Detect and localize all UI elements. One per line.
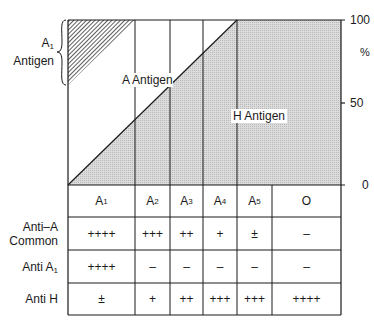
table-cell: +++ <box>135 217 170 250</box>
axis-tick-100: 100 <box>350 13 370 27</box>
column-header: A2 <box>135 185 170 217</box>
table-cell: +++ <box>203 283 237 315</box>
column-header: A5 <box>237 185 272 217</box>
a-antigen-label: A Antigen <box>122 73 173 87</box>
column-header: A3 <box>170 185 203 217</box>
table-cell: – <box>170 250 203 283</box>
table-cell: + <box>135 283 170 315</box>
table-cell: – <box>237 250 272 283</box>
column-header: A1 <box>68 185 135 217</box>
table-cell: ++++ <box>272 283 341 315</box>
table-cell: ± <box>237 217 272 250</box>
table-cell: – <box>203 250 237 283</box>
brace-icon <box>57 20 66 85</box>
row-label-anti-a1: Anti A1 <box>0 260 58 278</box>
column-header: O <box>272 185 341 217</box>
h-antigen-label: H Antigen <box>231 109 287 123</box>
column-header: A4 <box>203 185 237 217</box>
row-label-anti-a-common: Anti–ACommon <box>0 220 58 248</box>
table-cell: +++ <box>237 283 272 315</box>
row-label-anti-h: Anti H <box>0 292 58 306</box>
a1-antigen-label: A1 Antigen <box>0 36 54 68</box>
axis-tick-0: 0 <box>362 178 369 192</box>
table-cell: – <box>272 217 341 250</box>
table-cell: ++++ <box>68 250 135 283</box>
table-cell: ++++ <box>68 217 135 250</box>
table-cell: ++ <box>170 283 203 315</box>
axis-unit: % <box>360 46 370 58</box>
table-cell: – <box>272 250 341 283</box>
table-cell: – <box>135 250 170 283</box>
table-cell: ++ <box>170 217 203 250</box>
axis-tick-50: 50 <box>350 96 363 110</box>
table-cell: + <box>203 217 237 250</box>
table-cell: ± <box>68 283 135 315</box>
